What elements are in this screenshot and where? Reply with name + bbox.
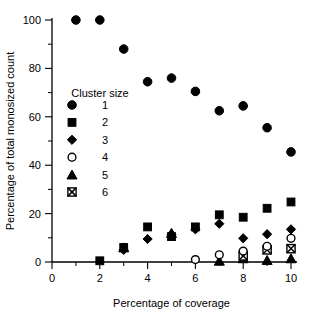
data-point-series-1	[96, 16, 105, 25]
x-axis-title: Percentage of coverage	[113, 297, 230, 309]
data-point-series-5	[262, 255, 272, 264]
legend-marker-1	[68, 101, 77, 110]
y-tick-label: 0	[35, 256, 41, 268]
data-point-series-2	[239, 213, 247, 221]
data-point-series-2	[215, 211, 223, 219]
data-point-series-3	[286, 225, 295, 234]
legend-label-6: 6	[102, 186, 108, 198]
data-point-series-2	[168, 233, 176, 241]
data-point-series-1	[143, 77, 152, 86]
data-point-series-3	[143, 234, 152, 243]
y-tick-label: 20	[29, 208, 41, 220]
legend-marker-6	[68, 188, 76, 196]
x-tick-label: 10	[285, 272, 297, 284]
x-tick-label: 4	[145, 272, 151, 284]
data-point-series-6	[287, 245, 295, 253]
data-point-series-2	[192, 223, 200, 231]
data-point-series-4	[239, 247, 247, 255]
legend-label-5: 5	[102, 169, 108, 181]
data-point-series-2	[120, 244, 128, 252]
legend-marker-2	[68, 119, 76, 127]
y-tick-label: 60	[29, 111, 41, 123]
y-tick-label: 40	[29, 159, 41, 171]
data-point-series-3	[239, 234, 248, 243]
x-tick-label: 2	[97, 272, 103, 284]
data-point-series-2	[96, 257, 104, 265]
y-axis-title: Percentage of total monosized count	[4, 52, 16, 231]
data-point-series-3	[215, 219, 224, 228]
legend-label-4: 4	[102, 151, 108, 163]
legend-marker-3	[67, 135, 76, 144]
legend-label-1: 1	[102, 99, 108, 111]
data-point-series-1	[167, 74, 176, 83]
data-point-series-1	[215, 106, 224, 115]
data-point-series-1	[191, 87, 200, 96]
legend-label-3: 3	[102, 134, 108, 146]
data-point-series-1	[287, 148, 296, 157]
data-point-series-5	[286, 254, 296, 263]
data-point-series-2	[144, 223, 152, 231]
y-tick-label: 100	[23, 14, 41, 26]
legend-marker-5	[67, 170, 77, 179]
data-point-series-4	[263, 242, 271, 250]
x-tick-label: 6	[192, 272, 198, 284]
chart-figure: 0246810Percentage of coverage02040608010…	[0, 0, 313, 315]
y-tick-label: 80	[29, 62, 41, 74]
data-point-series-1	[72, 16, 81, 25]
data-point-series-1	[263, 123, 272, 132]
data-point-series-4	[287, 234, 295, 242]
x-tick-label: 8	[240, 272, 246, 284]
data-point-series-1	[119, 45, 128, 54]
legend-marker-4	[68, 153, 76, 161]
data-point-series-1	[239, 102, 248, 111]
data-point-series-2	[287, 198, 295, 206]
data-point-series-4	[192, 256, 200, 264]
legend-title: Cluster size	[71, 87, 128, 99]
x-tick-label: 0	[49, 272, 55, 284]
data-point-series-3	[263, 230, 272, 239]
data-point-series-2	[263, 204, 271, 212]
scatter-plot: 0246810Percentage of coverage02040608010…	[0, 0, 313, 315]
legend-label-2: 2	[102, 116, 108, 128]
data-point-series-4	[215, 251, 223, 259]
